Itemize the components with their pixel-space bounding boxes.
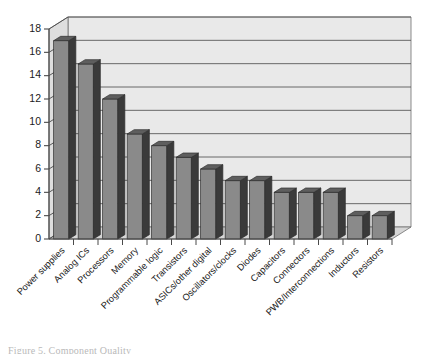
bar: [372, 211, 394, 239]
bar: [103, 95, 125, 239]
category-labels: Power suppliesAnalog ICsProcessorsMemory…: [15, 245, 385, 317]
bar: [274, 188, 296, 239]
y-axis-tick-labels: 024681012141618: [29, 22, 41, 244]
chart-plot-area: 024681012141618 Power suppliesAnalog ICs…: [0, 0, 424, 354]
bar: [201, 165, 223, 239]
bar: [152, 141, 174, 239]
bar: [127, 130, 149, 239]
y-tick-label: 10: [29, 115, 41, 127]
y-tick-label: 14: [29, 68, 41, 80]
y-tick-label: 16: [29, 45, 41, 57]
y-tick-label: 6: [35, 162, 41, 174]
y-tick-label: 2: [35, 208, 41, 220]
y-tick-label: 12: [29, 92, 41, 104]
bar: [250, 176, 272, 239]
y-tick-label: 0: [35, 232, 41, 244]
bar: [54, 36, 76, 239]
y-axis-ticks: [44, 29, 49, 239]
y-tick-label: 8: [35, 138, 41, 150]
x-axis-ticks: [74, 239, 393, 245]
bar: [176, 153, 198, 239]
bar: [78, 60, 100, 239]
bar: [299, 188, 321, 239]
bar-chart-figure: 024681012141618 Power suppliesAnalog ICs…: [0, 0, 424, 354]
y-tick-label: 18: [29, 22, 41, 34]
bar: [225, 176, 247, 239]
y-tick-label: 4: [35, 185, 41, 197]
bar: [323, 188, 345, 239]
figure-caption: Figure 5. Component Quality: [8, 345, 308, 354]
bar: [348, 211, 370, 239]
